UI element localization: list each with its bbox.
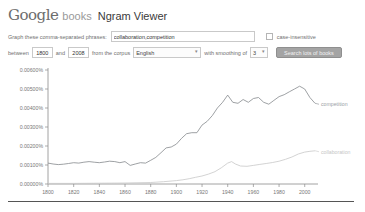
bottom-divider [8, 201, 354, 202]
x-tick-label: 1980 [273, 189, 285, 195]
smoothing-selected-value: 3 [253, 50, 256, 56]
case-insensitive-label: case-insensitive [277, 34, 316, 40]
header: Google books Ngram Viewer [8, 6, 167, 24]
phrases-input[interactable] [111, 31, 255, 42]
x-tick-label: 2000 [299, 189, 311, 195]
phrases-form-row: Graph these comma-separated phrases: cas… [8, 31, 360, 42]
x-tick-label: 1840 [94, 189, 106, 195]
series-label-leader-collaboration [315, 151, 319, 152]
google-logo[interactable]: Google [8, 6, 58, 24]
and-label: and [56, 50, 65, 56]
chevron-down-icon: ▾ [195, 50, 198, 55]
smoothing-select[interactable]: 3 ▾ [250, 47, 268, 58]
y-tick-label: 0.00400% [20, 105, 44, 111]
series-line-competition[interactable] [48, 86, 315, 165]
x-tick-label: 1800 [42, 189, 54, 195]
search-button[interactable]: Search lots of books [276, 47, 342, 58]
series-label-competition[interactable]: competition [321, 101, 348, 107]
between-label: between [8, 50, 29, 56]
corpus-label: from the corpus [92, 50, 130, 56]
series-label-collaboration[interactable]: collaboration [321, 149, 351, 155]
x-tick-label: 1880 [145, 189, 157, 195]
y-tick-label: 0.00000% [20, 181, 44, 187]
options-form-row: between and from the corpus English ▾ wi… [8, 47, 360, 58]
x-tick-label: 1860 [119, 189, 131, 195]
ngram-viewer-page: Google books Ngram Viewer Graph these co… [0, 0, 365, 212]
smoothing-label: with smoothing of [204, 50, 247, 56]
y-tick-label: 0.00500% [20, 86, 44, 92]
chevron-down-icon: ▾ [262, 50, 265, 55]
books-logo-text[interactable]: books [62, 10, 91, 22]
phrases-label: Graph these comma-separated phrases: [8, 34, 107, 40]
year-end-input[interactable] [68, 47, 89, 58]
y-tick-label: 0.00600% [20, 67, 44, 73]
corpus-select[interactable]: English ▾ [133, 47, 201, 58]
y-tick-label: 0.00300% [20, 124, 44, 130]
corpus-selected-value: English [136, 50, 154, 56]
series-label-leader-competition [315, 103, 319, 104]
series-line-collaboration[interactable] [48, 151, 315, 184]
case-insensitive-checkbox[interactable] [266, 33, 273, 40]
x-tick-label: 1920 [196, 189, 208, 195]
x-tick-label: 1900 [171, 189, 183, 195]
x-tick-label: 1940 [222, 189, 234, 195]
x-tick-label: 1820 [68, 189, 80, 195]
ngram-chart: 0.00600%0.00500%0.00400%0.00300%0.00200%… [0, 60, 365, 200]
y-tick-label: 0.00200% [20, 143, 44, 149]
page-title: Ngram Viewer [98, 10, 168, 22]
year-start-input[interactable] [32, 47, 53, 58]
x-tick-label: 1960 [248, 189, 260, 195]
y-tick-label: 0.00100% [20, 162, 44, 168]
